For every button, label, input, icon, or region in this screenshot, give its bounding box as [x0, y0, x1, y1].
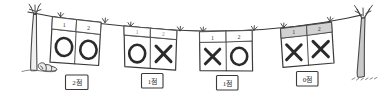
card-4-header-label-2: 2	[318, 26, 321, 32]
illustration-canvas: 1 2 2점	[0, 0, 392, 98]
card-4-score-label: 0점	[303, 76, 312, 84]
card-2-header-label-1: 1	[136, 29, 139, 35]
card-4-score: 0점	[297, 72, 319, 87]
card-1-header-label-1: 1	[63, 22, 66, 28]
card-4[interactable]: 1 2 0점	[281, 17, 335, 86]
card-2-score-label: 1점	[148, 78, 157, 86]
clothespin-icon	[58, 12, 64, 17]
card-2[interactable]: 1 2 1점	[124, 22, 183, 88]
card-1-header-label-2: 2	[87, 25, 90, 31]
card-2-score: 1점	[142, 74, 164, 89]
card-4-header-label-1: 1	[292, 29, 295, 35]
card-3-header-label-2: 2	[238, 34, 241, 40]
card-2-header-label-2: 2	[162, 31, 165, 37]
ground-rock	[38, 63, 57, 71]
card-3-score-label: 1점	[223, 80, 232, 88]
card-1[interactable]: 1 2 2점	[50, 12, 108, 89]
clothespin-icon	[102, 18, 108, 23]
card-1-score-label: 2점	[72, 79, 81, 87]
card-3[interactable]: 1 2 1점	[200, 26, 258, 90]
card-3-score: 1점	[217, 76, 239, 91]
card-1-score: 2점	[66, 75, 89, 90]
card-3-header-label-1: 1	[211, 35, 214, 41]
